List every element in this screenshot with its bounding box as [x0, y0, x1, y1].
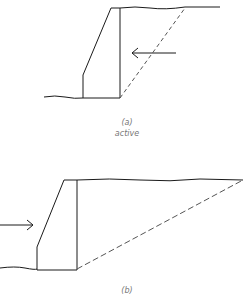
- caption-a-label: (a): [97, 118, 157, 127]
- arrow-left-icon: [132, 48, 176, 58]
- caption-a-sublabel: active: [97, 129, 157, 138]
- diagram-a: [44, 7, 220, 98]
- caption-b-label: (b): [97, 286, 157, 295]
- ground-left-b: [0, 267, 37, 269]
- ground-top-b: [77, 179, 243, 181]
- retaining-wall-diagrams: [0, 0, 245, 297]
- ground-left-a: [44, 96, 83, 98]
- failure-plane-b: [77, 180, 243, 269]
- wall-a: [83, 8, 120, 98]
- diagram-b: [0, 179, 243, 270]
- arrow-right-icon: [0, 220, 33, 230]
- wall-b: [37, 180, 77, 270]
- ground-top-a: [120, 7, 220, 9]
